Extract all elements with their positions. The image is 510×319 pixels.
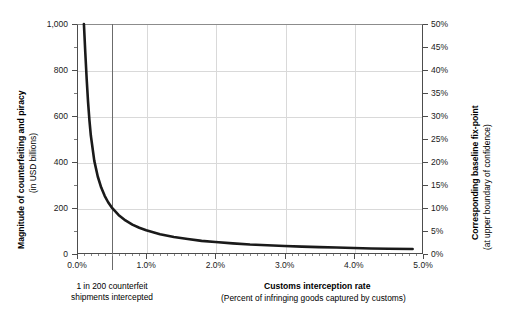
x-tick [285,254,286,259]
y2-tick [423,70,428,71]
x-tick [146,254,147,259]
y2-tick [423,208,428,209]
x-tick-minor [319,254,320,256]
y-tick-label: 800 [28,65,68,75]
x-tick-minor [132,254,133,256]
x-tick-minor [181,254,182,256]
y-tick-label: 0 [28,249,68,259]
x-tick [354,254,355,259]
x-tick-minor [229,254,230,256]
x-tick-minor [271,254,272,256]
y2-tick-label: 40% [431,65,471,75]
y2-tick-label: 35% [431,88,471,98]
y2-tick [423,47,428,48]
data-series-line [84,24,413,249]
y-axis-title: Magnitude of counterfeiting and piracy [16,90,26,249]
x-tick-minor [160,254,161,256]
x-tick-minor [112,254,113,256]
x-tick-minor [409,254,410,256]
y2-tick-label: 15% [431,180,471,190]
chart-container: 0 200 400 600 800 1,000 0% 5% 10% 15% 20… [0,0,510,319]
y2-tick [423,93,428,94]
y-tick-label: 600 [28,111,68,121]
x-tick-minor [368,254,369,256]
x-tick-minor [202,254,203,256]
y-tick [72,116,77,117]
y2-tick [423,24,428,25]
x-tick-minor [395,254,396,256]
y2-axis-title: Corresponding baseline fix-point [470,105,480,240]
x-tick-label: 1.0% [123,260,169,270]
x-tick-minor [292,254,293,256]
x-tick-label: 5.0% [400,260,446,270]
x-tick-minor [305,254,306,256]
y-tick-minor [74,139,77,140]
x-tick-minor [98,254,99,256]
x-axis-subtitle: (Percent of infringing goods captured by… [221,293,406,303]
x-tick-label: 3.0% [262,260,308,270]
y2-tick-label: 50% [431,19,471,29]
y-tick [72,162,77,163]
y-tick [72,24,77,25]
x-tick-minor [174,254,175,256]
x-tick-minor [278,254,279,256]
x-tick-minor [105,254,106,256]
x-tick-minor [243,254,244,256]
x-tick-label: 0.0% [54,260,100,270]
x-tick [215,254,216,259]
y2-tick-label: 20% [431,157,471,167]
y-tick-label: 200 [28,203,68,213]
x-axis-title: Customs interception rate [264,281,371,291]
marker-annotation-line1: 1 in 200 counterfeit [63,281,161,292]
y2-tick-label: 5% [431,226,471,236]
y2-tick [423,139,428,140]
y-tick-label: 1,000 [28,19,68,29]
x-tick-minor [416,254,417,256]
x-tick-minor [388,254,389,256]
y2-tick-label: 0% [431,249,471,259]
x-tick-minor [250,254,251,256]
x-tick-minor [91,254,92,256]
y2-tick [423,162,428,163]
x-tick-label: 2.0% [192,260,238,270]
x-tick-minor [361,254,362,256]
x-tick-minor [236,254,237,256]
x-tick-minor [222,254,223,256]
x-tick-minor [402,254,403,256]
y-tick [72,208,77,209]
x-tick-minor [375,254,376,256]
x-tick-label: 4.0% [331,260,377,270]
y-tick-minor [74,185,77,186]
x-tick-minor [381,254,382,256]
x-tick-minor [326,254,327,256]
x-tick-minor [188,254,189,256]
marker-annotation: 1 in 200 counterfeit shipments intercept… [63,281,161,303]
y2-tick-label: 10% [431,203,471,213]
marker-annotation-line2: shipments intercepted [63,292,161,303]
y-tick [72,70,77,71]
x-tick [77,254,78,259]
x-tick-minor [312,254,313,256]
x-tick-minor [347,254,348,256]
x-tick [423,254,424,259]
x-tick-minor [139,254,140,256]
x-tick-minor [84,254,85,256]
x-tick-minor [167,254,168,256]
y2-axis-subtitle: (at upper boundary of confidence) [482,124,492,250]
x-tick-minor [298,254,299,256]
x-tick-minor [257,254,258,256]
x-tick-minor [119,254,120,256]
x-tick-minor [264,254,265,256]
y2-tick [423,116,428,117]
x-tick-minor [340,254,341,256]
y-axis-subtitle: (in USD billions) [28,133,38,193]
x-tick-minor [208,254,209,256]
y2-tick [423,231,428,232]
x-tick-minor [333,254,334,256]
y2-tick [423,185,428,186]
x-tick-minor [125,254,126,256]
x-tick-minor [195,254,196,256]
y2-tick-label: 45% [431,42,471,52]
y-tick-minor [74,231,77,232]
y-tick-minor [74,93,77,94]
